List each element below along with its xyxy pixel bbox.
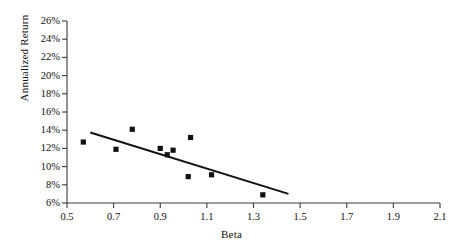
data-point	[209, 172, 214, 177]
data-point	[165, 152, 170, 157]
data-point	[170, 148, 175, 153]
scatter-chart: Annualized Return Beta 6%8%10%12%14%16%1…	[0, 0, 463, 248]
trend-line	[90, 132, 288, 193]
data-point	[113, 147, 118, 152]
data-point	[260, 192, 265, 197]
data-point	[186, 174, 191, 179]
data-point	[81, 139, 86, 144]
data-point	[188, 135, 193, 140]
plot-area	[0, 0, 463, 248]
data-point	[158, 146, 163, 151]
data-point	[130, 127, 135, 132]
